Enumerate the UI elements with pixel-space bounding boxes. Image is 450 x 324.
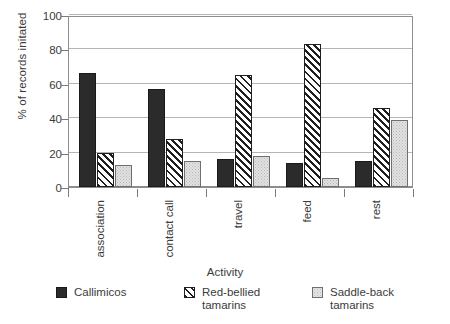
bar[interactable] bbox=[322, 178, 339, 187]
bar-group bbox=[207, 17, 286, 187]
bar[interactable] bbox=[373, 108, 390, 187]
y-tick-label: 60 bbox=[20, 79, 62, 91]
legend-label: Callimicos bbox=[74, 286, 126, 299]
legend-swatch-icon bbox=[56, 287, 67, 298]
bar[interactable] bbox=[115, 165, 132, 187]
chart-legend: CallimicosRed-bellied tamarinsSaddle-bac… bbox=[56, 286, 440, 312]
bar[interactable] bbox=[217, 159, 234, 187]
legend-item[interactable]: Saddle-back tamarins bbox=[312, 286, 440, 312]
legend-swatch-icon bbox=[184, 287, 195, 298]
y-tick-label: 20 bbox=[20, 148, 62, 160]
y-tick-label: 0 bbox=[20, 182, 62, 194]
x-tick-mark bbox=[206, 189, 207, 197]
bar[interactable] bbox=[97, 153, 114, 187]
bar-group bbox=[69, 17, 148, 187]
bar[interactable] bbox=[235, 75, 252, 187]
x-tick-mark bbox=[137, 189, 138, 197]
y-tick-label: 40 bbox=[20, 113, 62, 125]
bar[interactable] bbox=[79, 73, 96, 187]
bar[interactable] bbox=[304, 44, 321, 187]
bar[interactable] bbox=[391, 120, 408, 187]
legend-item[interactable]: Callimicos bbox=[56, 286, 184, 312]
x-tick-mark bbox=[68, 189, 69, 197]
bar[interactable] bbox=[286, 163, 303, 187]
x-tick-mark bbox=[275, 189, 276, 197]
x-tick-label: travel bbox=[232, 200, 244, 228]
bar[interactable] bbox=[166, 139, 183, 187]
x-tick-mark bbox=[344, 189, 345, 197]
legend-label: Saddle-back tamarins bbox=[330, 286, 394, 312]
bar-group bbox=[138, 17, 217, 187]
x-axis-title: Activity bbox=[0, 266, 450, 278]
bar[interactable] bbox=[355, 161, 372, 187]
x-tick-label: rest bbox=[370, 200, 382, 219]
x-tick-label: feed bbox=[301, 200, 313, 222]
bar-group bbox=[276, 17, 355, 187]
plot-area bbox=[68, 16, 413, 188]
bar[interactable] bbox=[253, 156, 270, 187]
x-tick-label: contact call bbox=[163, 200, 175, 258]
gridline bbox=[69, 14, 412, 15]
x-tick-mark bbox=[413, 189, 414, 197]
bar[interactable] bbox=[148, 89, 165, 187]
x-tick-label: association bbox=[94, 200, 106, 258]
bar-group bbox=[345, 17, 424, 187]
legend-item[interactable]: Red-bellied tamarins bbox=[184, 286, 312, 312]
y-tick-label: 100 bbox=[20, 10, 62, 22]
bar-chart-figure: % of records initated 020406080100 assoc… bbox=[0, 0, 450, 324]
legend-label: Red-bellied tamarins bbox=[202, 286, 260, 312]
y-tick-label: 80 bbox=[20, 44, 62, 56]
bar[interactable] bbox=[184, 161, 201, 187]
legend-swatch-icon bbox=[312, 287, 323, 298]
